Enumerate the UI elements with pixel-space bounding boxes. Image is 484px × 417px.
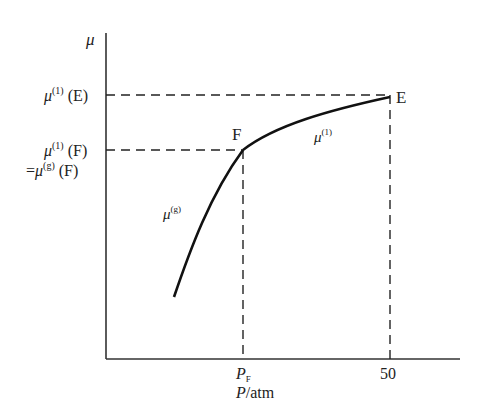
x-tick-PF: PF <box>235 365 251 384</box>
x-tick-50: 50 <box>380 365 396 382</box>
mu-vs-pressure-diagram: μ μ(1)(E) μ(1)(F) =μ(g)(F) F E μ(g) μ(1)… <box>0 0 484 417</box>
gas-curve <box>174 150 243 297</box>
liquid-curve-label: μ(1) <box>313 127 332 145</box>
y-axis-label: μ <box>85 30 95 49</box>
point-F-label: F <box>232 125 241 144</box>
y-tick-mu1-F: μ(1)(F) <box>43 140 87 160</box>
y-tick-mu1-E: μ(1)(E) <box>43 85 88 105</box>
gas-curve-label: μ(g) <box>162 204 181 222</box>
point-E-label: E <box>396 88 406 107</box>
x-axis-label: P/atm <box>235 384 275 401</box>
y-tick-mug-F: =μ(g)(F) <box>26 160 78 180</box>
